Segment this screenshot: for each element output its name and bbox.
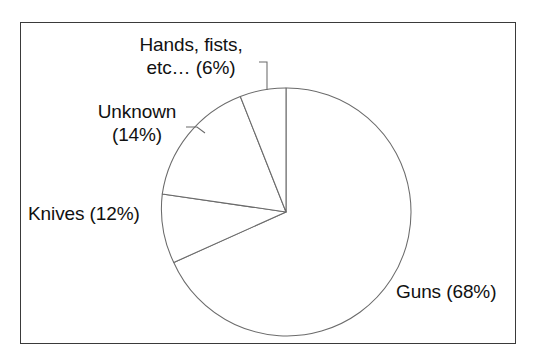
slice-label-guns: Guns (68%) bbox=[396, 280, 496, 303]
label-hands-line1: Hands, fists, bbox=[139, 34, 242, 55]
pie-chart-graphic bbox=[0, 0, 538, 360]
label-unknown-line1: Unknown bbox=[98, 101, 177, 122]
label-hands-line2: etc… (6%) bbox=[147, 57, 236, 78]
pie-chart-figure: Hands, fists,etc… (6%) Unknown(14%) Kniv… bbox=[0, 0, 538, 360]
slice-label-unknown: Unknown(14%) bbox=[75, 100, 199, 146]
label-unknown-line2: (14%) bbox=[112, 124, 162, 145]
slice-label-hands-fists: Hands, fists,etc… (6%) bbox=[117, 33, 265, 79]
slice-label-knives: Knives (12%) bbox=[28, 202, 140, 225]
